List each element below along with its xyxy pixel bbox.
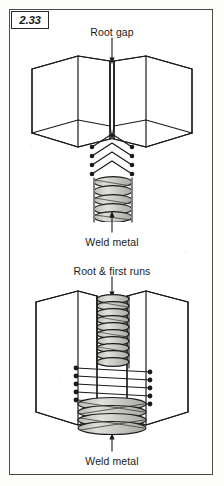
figure-page: 2.33 Root gap Weld metal Root & first ru…	[0, 0, 224, 486]
label-root-and-first-runs: Root & first runs	[0, 265, 224, 277]
label-weld-metal-upper: Weld metal	[0, 236, 224, 248]
label-weld-metal-lower: Weld metal	[0, 455, 224, 467]
figure-number-badge: 2.33	[11, 11, 49, 29]
